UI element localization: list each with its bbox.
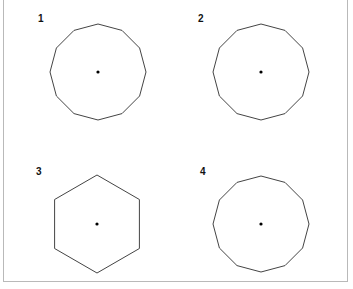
panel-label-3: 3 xyxy=(36,166,42,177)
center-dot-2 xyxy=(259,70,262,73)
panel-4: 4 xyxy=(200,166,309,272)
panel-label-4: 4 xyxy=(200,166,206,177)
polygon-figure: 1 2 3 4 xyxy=(0,0,353,289)
panel-label-2: 2 xyxy=(198,13,204,24)
center-dot-4 xyxy=(259,222,262,225)
panel-1: 1 xyxy=(38,13,146,120)
center-dot-3 xyxy=(95,222,98,225)
panel-3: 3 xyxy=(36,166,139,273)
panel-2: 2 xyxy=(198,13,309,120)
center-dot-1 xyxy=(96,70,99,73)
panel-label-1: 1 xyxy=(38,13,44,24)
